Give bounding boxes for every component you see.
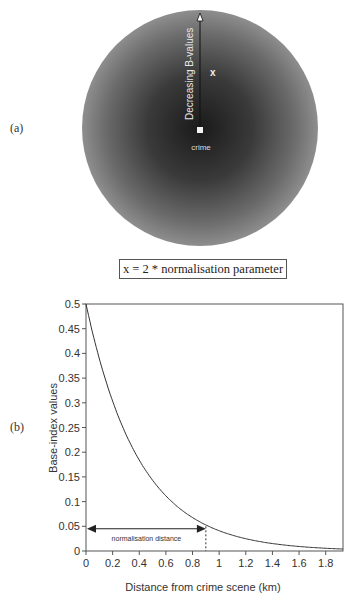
crime-gradient-diagram: Decreasing B-values x crime bbox=[0, 0, 353, 290]
y-tick-label: 0 bbox=[74, 545, 80, 557]
y-axis-label: Base-index values bbox=[47, 383, 59, 473]
x-tick-label: 0.8 bbox=[185, 557, 200, 569]
x-tick-label: 1.2 bbox=[238, 557, 253, 569]
panel-b: (b) 00.050.10.150.20.250.30.350.40.450.5… bbox=[0, 290, 353, 596]
point-x-label: x bbox=[210, 67, 216, 78]
y-tick-label: 0.1 bbox=[65, 496, 80, 508]
y-tick-label: 0.5 bbox=[65, 298, 80, 310]
crime-label: crime bbox=[191, 143, 211, 152]
arrow-left-icon bbox=[87, 525, 96, 533]
x-tick-label: 0.4 bbox=[132, 557, 147, 569]
panel-a: (a) Decreasing B-values x crime x = 2 * … bbox=[0, 0, 353, 290]
plot-frame bbox=[86, 304, 343, 551]
y-tick-label: 0.05 bbox=[59, 520, 80, 532]
decay-curve bbox=[86, 304, 343, 549]
y-tick-label: 0.3 bbox=[65, 397, 80, 409]
y-tick-label: 0.35 bbox=[59, 372, 80, 384]
y-axis: 00.050.10.150.20.250.30.350.40.450.5 bbox=[59, 298, 86, 557]
x-axis-label: Distance from crime scene (km) bbox=[125, 581, 280, 593]
x-axis: 00.20.40.60.811.21.41.61.8 bbox=[83, 551, 333, 569]
y-tick-label: 0.15 bbox=[59, 471, 80, 483]
caption-box: x = 2 * normalisation parameter bbox=[119, 259, 287, 279]
arrow-label: Decreasing B-values bbox=[184, 28, 195, 120]
x-tick-label: 1.8 bbox=[318, 557, 333, 569]
x-tick-label: 0 bbox=[83, 557, 89, 569]
normalisation-distance-annotation: normalisation distance bbox=[87, 525, 206, 551]
x-tick-label: 1.6 bbox=[291, 557, 306, 569]
y-tick-label: 0.2 bbox=[65, 446, 80, 458]
normalisation-distance-label: normalisation distance bbox=[112, 535, 182, 542]
x-tick-label: 0.2 bbox=[105, 557, 120, 569]
x-tick-label: 1 bbox=[216, 557, 222, 569]
x-tick-label: 1.4 bbox=[265, 557, 280, 569]
crime-marker bbox=[197, 127, 203, 133]
y-tick-label: 0.4 bbox=[65, 347, 80, 359]
decay-chart: 00.050.10.150.20.250.30.350.40.450.5 00.… bbox=[0, 290, 353, 596]
y-tick-label: 0.25 bbox=[59, 422, 80, 434]
y-tick-label: 0.45 bbox=[59, 323, 80, 335]
x-tick-label: 0.6 bbox=[158, 557, 173, 569]
arrow-right-icon bbox=[197, 525, 206, 533]
